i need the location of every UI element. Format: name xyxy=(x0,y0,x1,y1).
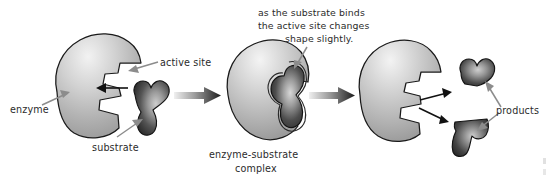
process-arrow-1 xyxy=(174,87,221,104)
product-arrow-top-line xyxy=(420,93,447,100)
complex-label-line-1: enzyme-substrate xyxy=(209,149,298,160)
corner-marks xyxy=(543,158,546,175)
stage-2-group: as the substrate binds the active site c… xyxy=(209,7,369,174)
enzyme-blob-3 xyxy=(359,40,441,141)
enzyme-action-diagram: enzyme active site substrate as the subs… xyxy=(0,0,550,183)
diagram-canvas: enzyme active site substrate as the subs… xyxy=(0,0,550,183)
complex-label-line-2: complex xyxy=(235,163,277,174)
products-label: products xyxy=(496,105,539,116)
active-site-leader-head xyxy=(128,65,139,73)
substrate-label: substrate xyxy=(92,142,139,153)
caption-line-3: shape slightly. xyxy=(285,33,353,44)
enzyme-label: enzyme xyxy=(10,104,49,115)
product-arrow-bottom-head xyxy=(439,115,449,124)
caption-line-1: as the substrate binds xyxy=(258,7,365,18)
caption-line-2: the active site changes xyxy=(258,20,369,31)
product-fragment-top xyxy=(460,59,495,86)
product-arrow-top-head xyxy=(442,88,452,98)
enzyme-blob-1 xyxy=(56,34,141,138)
substrate-shape-1 xyxy=(134,81,169,135)
products-leader-head-top xyxy=(485,81,494,92)
process-arrow-2 xyxy=(309,87,355,104)
stage-3-group: products xyxy=(359,40,539,156)
product-arrow-bottom-line xyxy=(419,108,444,120)
active-site-label: active site xyxy=(160,57,211,68)
